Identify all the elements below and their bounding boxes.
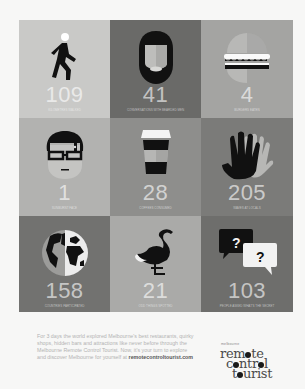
website-link[interactable]: remotecontroltourist.com [129,354,193,360]
stat-tile-waves: 205 waves at locals [201,118,293,216]
stat-tile-walked: 109 kilometres walked [19,20,110,118]
stat-number: 158 [19,280,110,302]
walking-person-icon [19,26,110,88]
remote-control-tourist-logo: melbourne remte cntrl turist [218,331,288,379]
stat-caption: people asked what's the secret [207,304,287,308]
coffee-cup-icon [110,124,201,186]
burger-icon [201,26,293,88]
stat-caption: countries participated [25,304,104,308]
face-with-glasses-icon [19,124,110,186]
stat-tile-coffees: 28 coffees consumed [110,118,201,216]
svg-text:?: ? [256,249,265,265]
stat-caption: sunburnt face [25,206,104,210]
stat-tile-sunburnt: 1 sunburnt face [19,118,110,216]
stat-number: 28 [110,182,201,204]
stat-caption: waves at locals [207,206,287,210]
bearded-face-icon [110,26,201,88]
stat-number: 109 [19,84,110,106]
footer-description: For 3 days the world explored Melbourne'… [37,333,197,361]
stat-caption: odd things spotted [116,304,195,308]
stat-tile-bearded: 41 conversations with bearded men [110,20,201,118]
stat-caption: coffees consumed [116,206,195,210]
stat-caption: conversations with bearded men [116,108,195,112]
waving-hands-icon [201,124,293,186]
stat-number: 4 [201,84,293,106]
globe-icon [19,222,110,284]
stat-number: 1 [19,182,110,204]
stat-number: 205 [201,182,293,204]
question-bubbles-icon: ? ? [201,222,293,284]
stat-tile-burgers: 4 burgers eaten [201,20,293,118]
stat-caption: kilometres walked [25,108,104,112]
svg-text:?: ? [232,235,241,251]
logo-line-tourist: turist [232,369,288,379]
stat-number: 41 [110,84,201,106]
stat-caption: burgers eaten [207,108,287,112]
stat-tile-asked: ? ? 103 people asked what's the secret [201,216,293,312]
logo-text: urist [243,366,272,381]
stat-tile-spotted: 21 odd things spotted [110,216,201,312]
flamingo-icon [110,222,201,284]
stat-number: 21 [110,280,201,302]
stat-number: 103 [201,280,293,302]
stat-tile-countries: 158 countries participated [19,216,110,312]
stats-grid: 109 kilometres walked 41 conversations w… [19,20,293,312]
